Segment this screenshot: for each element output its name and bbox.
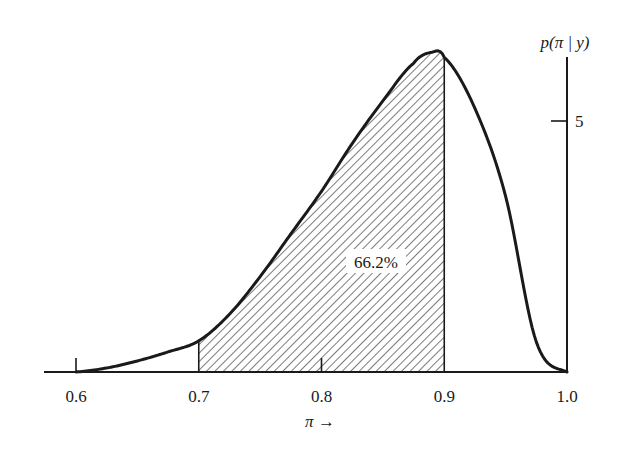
x-tick-label: 1.0: [556, 387, 577, 406]
x-tick-label: 0.7: [188, 387, 210, 406]
x-tick-label: 0.8: [311, 387, 332, 406]
y-axis-title: p(π | y): [539, 33, 589, 52]
posterior-density-chart: 0.60.70.80.91.0 5 66.2% p(π | y) π →: [0, 0, 624, 453]
shaded-percent-label: 66.2%: [354, 253, 398, 272]
x-tick-label: 0.9: [434, 387, 455, 406]
percent-annotation: 66.2%: [346, 249, 406, 273]
x-axis-title: π →: [305, 412, 335, 431]
y-tick-label: 5: [575, 112, 584, 131]
x-axis-ticks: 0.60.70.80.91.0: [65, 358, 577, 406]
x-tick-label: 0.6: [65, 387, 86, 406]
shaded-region: [199, 51, 445, 372]
